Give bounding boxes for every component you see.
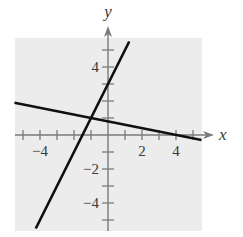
y-tick-label: −4: [83, 195, 99, 211]
x-tick-label: 4: [172, 143, 180, 159]
y-axis-label: y: [102, 2, 112, 21]
coordinate-plane-chart: −424 4−2−4 x y: [0, 0, 243, 237]
y-tick-label: 4: [92, 59, 100, 75]
y-tick-label: −2: [83, 161, 99, 177]
x-axis-label: x: [218, 125, 227, 144]
x-tick-label: 2: [138, 143, 146, 159]
x-tick-label: −4: [32, 143, 48, 159]
